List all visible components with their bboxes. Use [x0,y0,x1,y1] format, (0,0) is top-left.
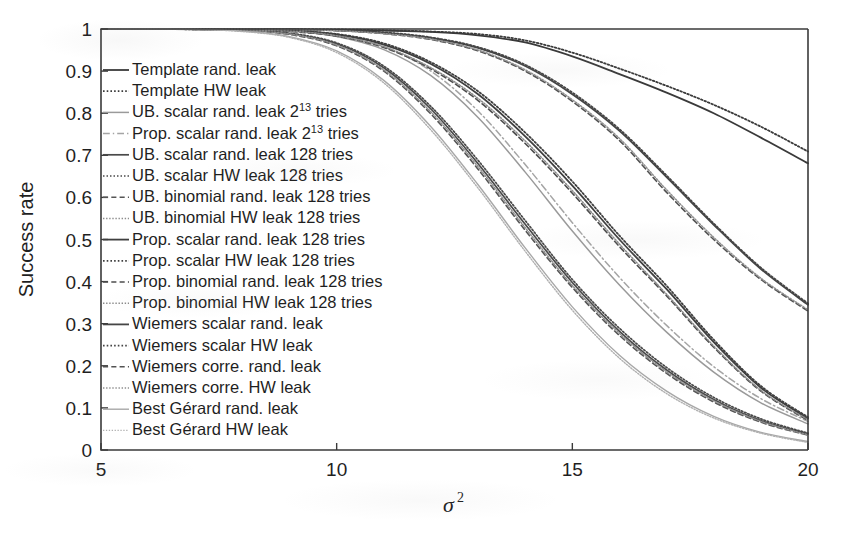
y-tick-label: 0.4 [66,272,93,293]
legend-item-17[interactable]: Best Gérard HW leak [103,420,289,438]
y-tick-label: 0.7 [66,145,92,166]
legend-label: Wiemers corre. rand. leak [132,357,322,375]
legend-item-6[interactable]: UB. binomial rand. leak 128 tries [103,187,370,205]
legend-item-16[interactable]: Best Gérard rand. leak [103,399,299,417]
figure-container: 00.10.20.30.40.50.60.70.80.915101520 Tem… [0,0,854,534]
y-tick-label: 0.8 [66,103,92,124]
legend-label: Wiemers corre. HW leak [132,378,312,396]
line-chart: 00.10.20.30.40.50.60.70.80.915101520 Tem… [0,0,854,534]
legend: Template rand. leakTemplate HW leakUB. s… [103,60,382,438]
legend-item-5[interactable]: UB. scalar HW leak 128 tries [103,166,343,184]
y-tick-label: 0.9 [66,61,92,82]
x-axis-title-sigma: σ [443,492,455,517]
legend-item-2[interactable]: UB. scalar rand. leak 213 tries [103,101,347,120]
y-tick-label: 1 [81,19,92,40]
legend-item-7[interactable]: UB. binomial HW leak 128 tries [103,208,360,226]
legend-item-4[interactable]: UB. scalar rand. leak 128 tries [103,145,353,163]
legend-label: UB. binomial rand. leak 128 tries [132,187,370,205]
legend-label: UB. scalar HW leak 128 tries [132,166,343,184]
legend-label-exponent: 13 [311,123,323,135]
legend-item-13[interactable]: Wiemers scalar HW leak [103,336,313,354]
x-tick-label: 15 [562,459,583,480]
x-axis-title-exponent: 2 [457,490,464,505]
legend-item-3[interactable]: Prop. scalar rand. leak 213 tries [103,123,359,142]
legend-label-exponent: 13 [299,101,311,113]
legend-label: Prop. binomial HW leak 128 tries [132,293,372,311]
legend-label: Best Gérard rand. leak [132,399,299,417]
y-tick-label: 0.3 [66,314,92,335]
y-axis-title: Success rate [15,182,37,298]
legend-label: Prop. scalar rand. leak 213 tries [132,123,359,142]
x-tick-label: 20 [797,459,818,480]
legend-label: Best Gérard HW leak [132,420,289,438]
legend-item-1[interactable]: Template HW leak [103,81,267,99]
x-axis-title: σ2 [443,490,464,517]
y-tick-label: 0.2 [66,356,92,377]
legend-label: Wiemers scalar HW leak [132,336,313,354]
y-tick-label: 0.1 [66,398,92,419]
x-tick-label: 10 [326,459,347,480]
legend-item-9[interactable]: Prop. scalar HW leak 128 tries [103,251,355,269]
legend-item-0[interactable]: Template rand. leak [103,60,277,78]
legend-label: Template HW leak [132,81,267,99]
legend-item-8[interactable]: Prop. scalar rand. leak 128 tries [103,230,365,248]
legend-label: Wiemers scalar rand. leak [132,314,323,332]
legend-label: Template rand. leak [132,60,277,78]
y-tick-label: 0 [81,440,92,461]
legend-item-14[interactable]: Wiemers corre. rand. leak [103,357,322,375]
legend-label: UB. binomial HW leak 128 tries [132,208,360,226]
x-tick-label: 5 [96,459,107,480]
legend-label: UB. scalar rand. leak 128 tries [132,145,353,163]
legend-label: Prop. scalar HW leak 128 tries [132,251,355,269]
y-tick-label: 0.5 [66,230,92,251]
legend-item-12[interactable]: Wiemers scalar rand. leak [103,314,323,332]
legend-item-10[interactable]: Prop. binomial rand. leak 128 tries [103,272,382,290]
legend-label: Prop. scalar rand. leak 128 tries [132,230,365,248]
legend-label: Prop. binomial rand. leak 128 tries [132,272,382,290]
legend-item-15[interactable]: Wiemers corre. HW leak [103,378,312,396]
legend-item-11[interactable]: Prop. binomial HW leak 128 tries [103,293,372,311]
legend-label: UB. scalar rand. leak 213 tries [132,101,347,120]
y-tick-label: 0.6 [66,187,92,208]
